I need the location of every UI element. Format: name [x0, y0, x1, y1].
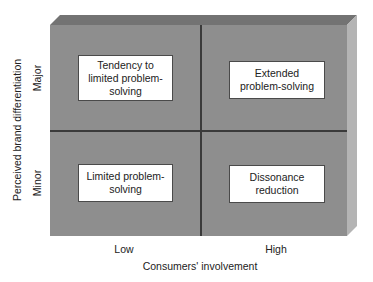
y-tick-major: Major: [31, 65, 43, 91]
quadrant-top-right-label: Extended problem-solving: [233, 67, 321, 93]
quadrant-bottom-right-label: Dissonance reduction: [233, 171, 321, 197]
matrix-side-bevel: [347, 15, 357, 236]
horizontal-divider: [50, 130, 347, 132]
quadrant-bottom-left-box: Limited problem-solving: [78, 164, 173, 202]
quadrant-top-right-box: Extended problem-solving: [229, 61, 325, 99]
x-axis-title: Consumers' involvement: [143, 260, 258, 272]
x-tick-high: High: [265, 243, 287, 255]
quadrant-bottom-left-label: Limited problem-solving: [82, 170, 169, 196]
vertical-divider: [200, 25, 202, 236]
quadrant-top-left-box: Tendency to limited problem-solving: [78, 55, 173, 101]
matrix-diagram: Tendency to limited problem-solving Exte…: [0, 0, 373, 282]
y-tick-minor: Minor: [31, 170, 43, 196]
x-tick-low: Low: [114, 243, 133, 255]
quadrant-bottom-right-box: Dissonance reduction: [229, 165, 325, 203]
matrix-top-bevel: [50, 15, 357, 25]
quadrant-top-left-label: Tendency to limited problem-solving: [82, 59, 169, 98]
y-axis-title: Perceived brand differentiation: [11, 59, 23, 201]
